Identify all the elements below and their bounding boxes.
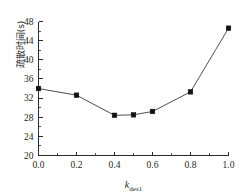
x-tick-label: 0.6 <box>147 160 159 170</box>
x-tick-label: 0.0 <box>33 160 45 170</box>
x-tick-label: 0.8 <box>185 160 197 170</box>
y-tick-label: 32 <box>24 93 34 103</box>
data-point-marker <box>36 86 41 91</box>
y-tick-label: 40 <box>24 55 34 65</box>
y-tick-label: 24 <box>24 132 34 142</box>
data-point-marker <box>112 113 117 118</box>
series-line-path <box>39 28 229 115</box>
y-tick-label: 48 <box>24 17 34 27</box>
x-tick-label: 0.4 <box>109 160 121 170</box>
data-point-marker <box>226 26 231 31</box>
y-tick-label: 28 <box>24 113 34 123</box>
data-point-marker <box>150 109 155 114</box>
x-tick-label: 1.0 <box>223 160 235 170</box>
y-tick-label: 44 <box>24 36 34 46</box>
chart-figure: 疏散时间(s) 20242832364044480.00.20.40.60.81… <box>0 0 246 193</box>
line-chart: 20242832364044480.00.20.40.60.81.0kdes1 <box>0 0 246 193</box>
data-point-marker <box>188 90 193 95</box>
x-axis-title: kdes1 <box>125 179 143 193</box>
y-tick-label: 36 <box>24 74 34 84</box>
x-tick-label: 0.2 <box>71 160 83 170</box>
data-point-marker <box>74 93 79 98</box>
data-point-marker <box>131 113 136 118</box>
